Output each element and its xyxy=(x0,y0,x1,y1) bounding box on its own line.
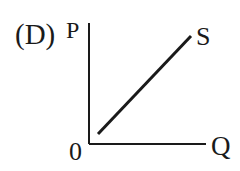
curve-label: S xyxy=(196,22,210,51)
supply-curve xyxy=(98,36,191,134)
origin-label: 0 xyxy=(69,137,82,166)
x-axis-label: Q xyxy=(211,131,231,161)
option-label: (D) xyxy=(15,18,55,51)
supply-diagram: (D) P S 0 Q xyxy=(0,0,240,171)
y-axis-label: P xyxy=(66,17,79,43)
